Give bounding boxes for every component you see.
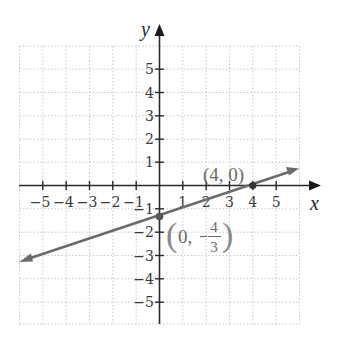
y-tick-label: −2: [133, 224, 154, 240]
point-b-denominator: 3: [210, 239, 218, 255]
x-tick-label: 3: [225, 194, 234, 210]
point-b-open: 0,: [178, 226, 192, 247]
y-tick-label: −3: [133, 248, 154, 264]
y-axis: 5 4 3 2 1 −1 −2 −3 −4 −5 y: [133, 18, 164, 324]
svg-text:): ): [222, 216, 233, 254]
coordinate-plane: −5 −4 −3 −2 −1 1 2 3 4 5 x: [0, 0, 342, 344]
y-tick-label: 2: [145, 131, 154, 147]
x-tick-labels: −5 −4 −3 −2 −1 1 2 3 4 5: [30, 194, 281, 210]
y-tick-label: −4: [133, 271, 154, 287]
point-y-intercept: [156, 213, 164, 221]
x-tick-label: 2: [202, 194, 211, 210]
point-x-intercept: [249, 182, 256, 189]
y-tick-label: −5: [133, 294, 154, 310]
svg-text:(: (: [166, 216, 177, 254]
x-axis-label: x: [309, 192, 319, 214]
y-tick-label: 3: [145, 108, 154, 124]
x-tick-label: 5: [272, 194, 281, 210]
y-tick-label: 1: [145, 154, 154, 170]
y-tick-label: 5: [145, 61, 154, 77]
x-tick-label: −4: [53, 194, 74, 210]
line-arrow-right-icon: [286, 167, 299, 176]
x-axis-arrow-icon: [309, 181, 321, 191]
y-axis-arrow-icon: [155, 24, 165, 36]
line-arrow-left-icon: [19, 254, 33, 263]
x-tick-label: 4: [248, 194, 257, 210]
x-tick-label: −3: [77, 194, 98, 210]
x-tick-label: −2: [100, 194, 121, 210]
y-tick-label: −1: [133, 201, 154, 217]
point-label-x-intercept: (4, 0): [203, 164, 244, 186]
y-tick-label: 4: [145, 85, 154, 101]
y-axis-label: y: [139, 18, 150, 41]
point-b-numerator: 4: [210, 219, 218, 235]
x-tick-label: −5: [30, 194, 51, 210]
point-label-y-intercept: ( 0, 4 3 ): [166, 216, 233, 255]
